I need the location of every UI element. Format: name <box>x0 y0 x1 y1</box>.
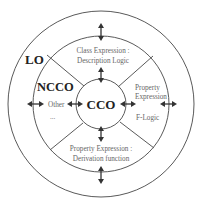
ontology-layer-diagram: LO NCCO CCO Class Expression : Descripti… <box>0 0 203 209</box>
bottom-sector-line1: Property Expression : <box>70 145 132 153</box>
right-sector-line3: F-Logic <box>136 114 159 122</box>
double-arrow-icon-top-outer <box>98 23 104 41</box>
left-sector-line1: Other <box>48 101 65 109</box>
top-sector-line2: Description Logic <box>77 57 129 65</box>
double-arrow-icon-left-outer <box>27 101 44 107</box>
top-sector-line1: Class Expression : <box>76 47 129 55</box>
label-lo: LO <box>25 52 44 67</box>
double-arrow-icon-top-inner <box>98 67 104 83</box>
right-sector-line2: Expression <box>135 93 167 101</box>
right-sector-line1: Property <box>135 84 160 92</box>
double-arrow-icon-left-inner <box>67 101 83 107</box>
double-arrow-icon-bottom-inner <box>98 126 104 142</box>
label-ncco: NCCO <box>37 80 74 94</box>
bottom-sector-line2: Derivation function <box>73 155 130 163</box>
left-sector-line2: ... <box>50 113 56 121</box>
double-arrow-icon-right-inner <box>120 101 136 107</box>
double-arrow-icon-bottom-outer <box>98 166 104 184</box>
label-cco: CCO <box>87 97 116 112</box>
